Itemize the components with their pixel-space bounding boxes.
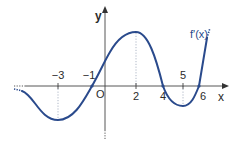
x-axis-arrow-icon bbox=[222, 83, 229, 89]
x-axis-label: x bbox=[218, 91, 224, 103]
y-axis-label: y bbox=[95, 10, 102, 22]
tick-label-5: 5 bbox=[180, 70, 186, 81]
tick-label-2: 2 bbox=[133, 91, 139, 102]
curve-label: f'(x) bbox=[190, 29, 208, 40]
curve-dotted-left bbox=[14, 89, 22, 91]
tick-label-4: 4 bbox=[160, 91, 166, 102]
y-axis-arrow-icon bbox=[102, 6, 108, 13]
tick-label-minus3: −3 bbox=[52, 70, 65, 81]
tick-label-6: 6 bbox=[200, 91, 206, 102]
derivative-graph bbox=[0, 0, 234, 143]
origin-label: O bbox=[96, 89, 105, 100]
tick-label-minus1: −1 bbox=[83, 70, 96, 81]
